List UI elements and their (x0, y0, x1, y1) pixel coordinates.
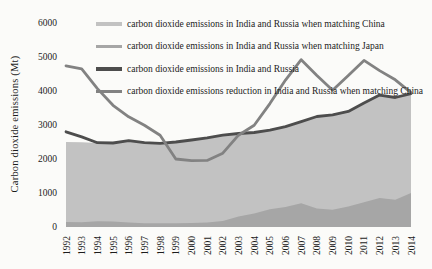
x-tick-label: 1998 (156, 236, 166, 255)
y-axis-title: Carbon dioxide emissions (Mt) (9, 49, 23, 199)
x-tick-label: 1996 (124, 236, 134, 255)
legend-label-reduction-matching-china: carbon dioxide emissions reduction in In… (127, 86, 423, 97)
x-tick-label: 1997 (140, 236, 150, 255)
legend-item-matching-china: carbon dioxide emissions in India and Ru… (96, 13, 423, 35)
legend-swatch-actual-emissions-icon (96, 67, 122, 71)
y-tick-label: 2000 (38, 154, 57, 164)
x-tick-label: 2013 (391, 236, 401, 255)
chart-legend: carbon dioxide emissions in India and Ru… (96, 13, 423, 103)
x-tick-label: 2000 (187, 236, 197, 255)
x-tick-label: 2010 (344, 236, 354, 255)
x-tick-label: 2007 (297, 236, 307, 255)
x-tick-label: 1993 (77, 236, 87, 255)
y-tick-label: 4000 (38, 86, 57, 96)
x-tick-label: 2009 (328, 236, 338, 255)
y-tick-label: 1000 (38, 188, 57, 198)
legend-item-matching-japan: carbon dioxide emissions in India and Ru… (96, 35, 423, 57)
y-tick-label: 0 (52, 222, 57, 232)
legend-swatch-matching-china-icon (96, 22, 122, 26)
legend-item-reduction-matching-china: carbon dioxide emissions reduction in In… (96, 80, 423, 102)
x-tick-label: 1992 (62, 236, 72, 255)
x-tick-label: 2005 (265, 236, 275, 255)
y-tick-label: 5000 (38, 52, 57, 62)
x-tick-label: 2008 (312, 236, 322, 255)
legend-label-matching-japan: carbon dioxide emissions in India and Ru… (127, 41, 384, 52)
x-tick-label: 2006 (281, 236, 291, 255)
x-tick-label: 2001 (203, 236, 213, 255)
y-tick-label: 6000 (38, 18, 57, 28)
x-tick-label: 2002 (218, 236, 228, 255)
legend-label-matching-china: carbon dioxide emissions in India and Ru… (127, 19, 385, 30)
x-tick-label: 1999 (171, 236, 181, 255)
x-tick-label: 2003 (234, 236, 244, 255)
x-tick-label: 2011 (359, 236, 369, 255)
legend-swatch-matching-japan-icon (96, 45, 122, 49)
legend-label-actual-emissions: carbon dioxide emissions in India and Ru… (127, 64, 299, 75)
x-tick-label: 2014 (407, 236, 417, 255)
legend-swatch-reduction-matching-china-icon (96, 90, 122, 94)
legend-item-actual-emissions: carbon dioxide emissions in India and Ru… (96, 58, 423, 80)
x-tick-label: 1994 (93, 236, 103, 255)
x-tick-label: 1995 (109, 236, 119, 255)
chart-figure: 0100020003000400050006000199219931994199… (0, 0, 432, 269)
y-tick-label: 3000 (38, 120, 57, 130)
x-tick-label: 2012 (375, 236, 385, 255)
x-tick-label: 2004 (250, 236, 260, 255)
